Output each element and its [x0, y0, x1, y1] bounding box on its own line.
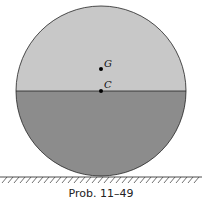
- point-g: [99, 67, 103, 71]
- ground: [0, 177, 202, 183]
- caption: Prob. 11–49: [69, 187, 134, 198]
- point-c: [99, 89, 103, 93]
- label-c: C: [104, 79, 112, 90]
- ground-hatching: [2, 177, 199, 183]
- label-g: G: [104, 58, 112, 69]
- diagram-canvas: G C Prob. 11–49: [0, 0, 202, 198]
